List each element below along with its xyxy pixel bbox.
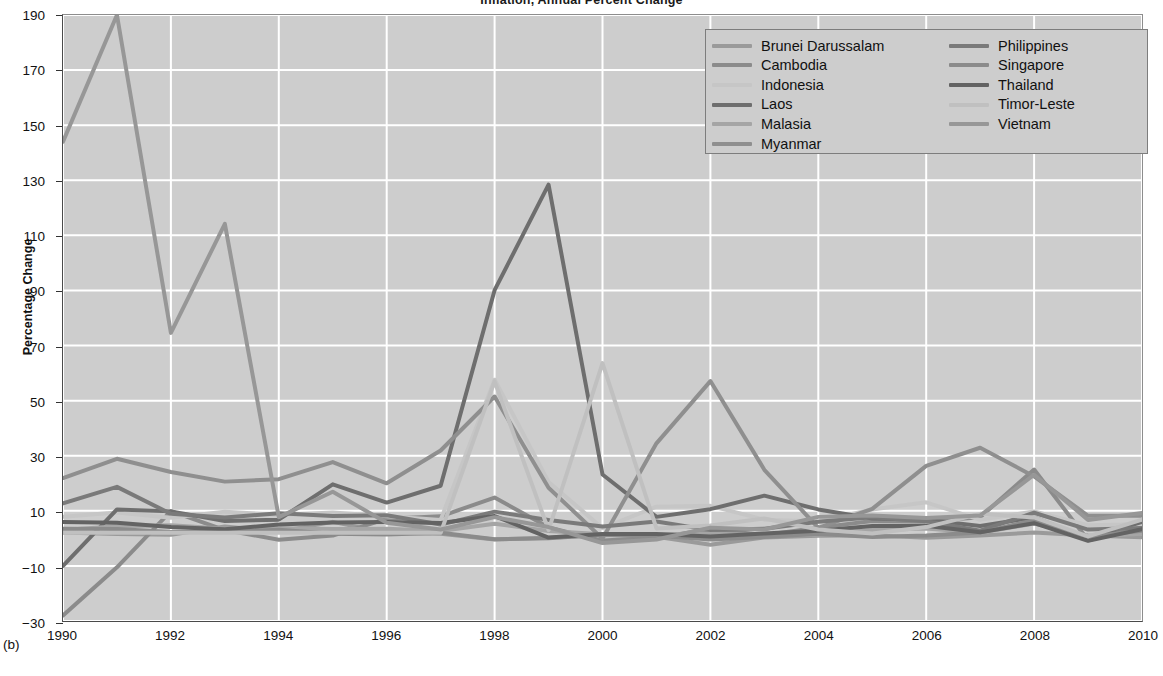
legend-column-right: PhilippinesSingaporeThailandTimor-LesteV…: [949, 36, 1144, 134]
legend-item[interactable]: Laos: [712, 95, 940, 115]
legend-item[interactable]: Philippines: [949, 36, 1144, 56]
x-tick-label: 2000: [587, 628, 617, 643]
x-tick-label: 2008: [1020, 628, 1050, 643]
y-tick-label: 70: [30, 339, 45, 354]
legend-item-label: Timor-Leste: [998, 97, 1075, 112]
legend-item[interactable]: Thailand: [949, 75, 1144, 95]
legend-item[interactable]: Brunei Darussalam: [712, 36, 940, 56]
legend-item-label: Laos: [761, 97, 792, 112]
legend-swatch-icon: [949, 63, 989, 67]
x-tick-label: 1998: [479, 628, 509, 643]
legend-item[interactable]: Indonesia: [712, 75, 940, 95]
legend-swatch-icon: [949, 44, 989, 48]
legend-swatch-icon: [949, 83, 989, 87]
legend-swatch-icon: [712, 142, 752, 146]
y-tick-label: 10: [30, 505, 45, 520]
legend-swatch-icon: [712, 122, 752, 126]
legend-item-label: Myanmar: [761, 137, 821, 152]
x-tick-label: 1992: [155, 628, 185, 643]
y-tick-label: 30: [30, 450, 45, 465]
legend-swatch-icon: [712, 103, 752, 107]
legend-item[interactable]: Cambodia: [712, 56, 940, 76]
inflation-chart-figure: Inflation, Annual Percent Change Percent…: [0, 0, 1163, 676]
legend-swatch-icon: [712, 44, 752, 48]
y-tick-label: 190: [22, 8, 45, 23]
legend-item[interactable]: Timor-Leste: [949, 95, 1144, 115]
legend-swatch-icon: [949, 122, 989, 126]
legend-swatch-icon: [949, 103, 989, 107]
y-tick-label: 150: [22, 118, 45, 133]
legend-item[interactable]: Vietnam: [949, 114, 1144, 134]
y-tick-label: 110: [23, 229, 45, 244]
y-tick-label: 90: [30, 284, 45, 299]
y-tick-label: 170: [22, 63, 45, 78]
legend-item-label: Malasia: [761, 117, 811, 132]
y-tick-label: 50: [30, 394, 45, 409]
legend-item[interactable]: Malasia: [712, 114, 940, 134]
legend-item-label: Brunei Darussalam: [761, 39, 884, 54]
legend-item-label: Thailand: [998, 78, 1054, 93]
legend-item-label: Singapore: [998, 58, 1064, 73]
legend-column-left: Brunei DarussalamCambodiaIndonesiaLaosMa…: [712, 36, 940, 154]
y-tick-label: 130: [22, 173, 45, 188]
legend-item-label: Indonesia: [761, 78, 824, 93]
chart-title: Inflation, Annual Percent Change: [0, 0, 1163, 7]
y-tick-mark: [56, 623, 63, 624]
x-tick-label: 1996: [371, 628, 401, 643]
x-axis-tick-labels: 1990199219941996199820002002200420062008…: [62, 628, 1143, 650]
legend-item-label: Vietnam: [998, 117, 1051, 132]
legend-item-label: Cambodia: [761, 58, 827, 73]
legend-swatch-icon: [712, 63, 752, 67]
y-tick-label: −10: [22, 560, 45, 575]
x-tick-label: 2002: [696, 628, 726, 643]
y-tick-label: −30: [22, 616, 45, 631]
x-tick-label: 2010: [1128, 628, 1158, 643]
legend-item[interactable]: Myanmar: [712, 134, 940, 154]
y-axis-tick-labels: −30−101030507090110130150170190: [0, 14, 56, 622]
x-tick-label: 1990: [47, 628, 77, 643]
x-tick-label: 1994: [263, 628, 293, 643]
legend-swatch-icon: [712, 83, 752, 87]
legend-item[interactable]: Singapore: [949, 56, 1144, 76]
x-tick-label: 2004: [804, 628, 834, 643]
legend: Brunei DarussalamCambodiaIndonesiaLaosMa…: [705, 29, 1148, 154]
panel-label: (b): [3, 637, 20, 652]
x-tick-label: 2006: [912, 628, 942, 643]
legend-item-label: Philippines: [998, 39, 1068, 54]
